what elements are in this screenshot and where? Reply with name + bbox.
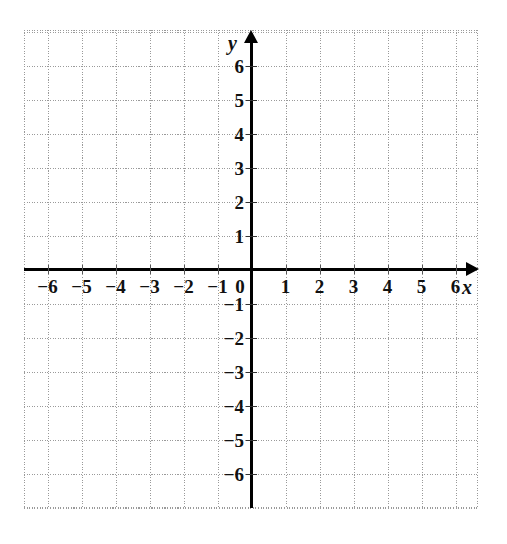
y-axis-tick-label: −4 [0,396,244,415]
x-axis-tick [456,265,457,274]
x-axis-tick [354,265,355,274]
x-axis-tick-label: 6 [451,277,461,296]
x-axis-tick [422,265,423,274]
y-axis-tick-label: 2 [0,192,244,211]
y-axis-tick-label: −2 [0,328,244,347]
x-axis-tick [286,265,287,274]
y-axis-name-label: y [228,33,237,53]
y-axis-tick [246,440,257,441]
x-axis-tick [218,265,219,274]
x-axis-tick-label: 2 [315,277,325,296]
x-axis-line [24,268,474,271]
y-axis-tick [246,236,257,237]
y-axis-tick [246,474,257,475]
x-axis-tick-label: 3 [349,277,359,296]
x-axis-tick-label: 5 [417,277,427,296]
y-axis-tick [246,304,257,305]
y-axis-tick [246,134,257,135]
y-axis-tick-label: 6 [0,56,244,75]
x-axis-tick [184,265,185,274]
y-axis-tick [246,202,257,203]
x-axis-tick [150,265,151,274]
y-axis-tick-label: −1 [0,294,244,313]
x-axis-tick [116,265,117,274]
y-axis-arrow-icon [244,30,258,43]
x-axis-arrow-icon [466,262,479,276]
y-axis-tick-label: −3 [0,362,244,381]
origin-label: 0 [235,277,245,296]
y-axis-tick-label: 3 [0,158,244,177]
y-axis-tick [246,100,257,101]
coordinate-plane-figure: −6−5−4−3−2−1123456−6−5−4−3−2−1123456 0 x… [0,0,507,544]
y-axis-tick [246,66,257,67]
y-axis-tick [246,406,257,407]
x-axis-tick-label: 4 [383,277,393,296]
x-axis-name-label: x [462,277,472,297]
x-axis-tick-label: 1 [281,277,291,296]
x-axis-tick [388,265,389,274]
x-axis-tick [82,265,83,274]
y-axis-tick-label: 1 [0,226,244,245]
y-axis-tick [246,372,257,373]
y-axis-tick-label: −6 [0,464,244,483]
y-axis-tick-label: 5 [0,90,244,109]
y-axis-tick-label: −5 [0,430,244,449]
y-axis-tick [246,168,257,169]
y-axis-tick-label: 4 [0,124,244,143]
x-axis-tick [48,265,49,274]
y-axis-line [250,40,253,508]
y-axis-tick [246,338,257,339]
x-axis-tick [320,265,321,274]
